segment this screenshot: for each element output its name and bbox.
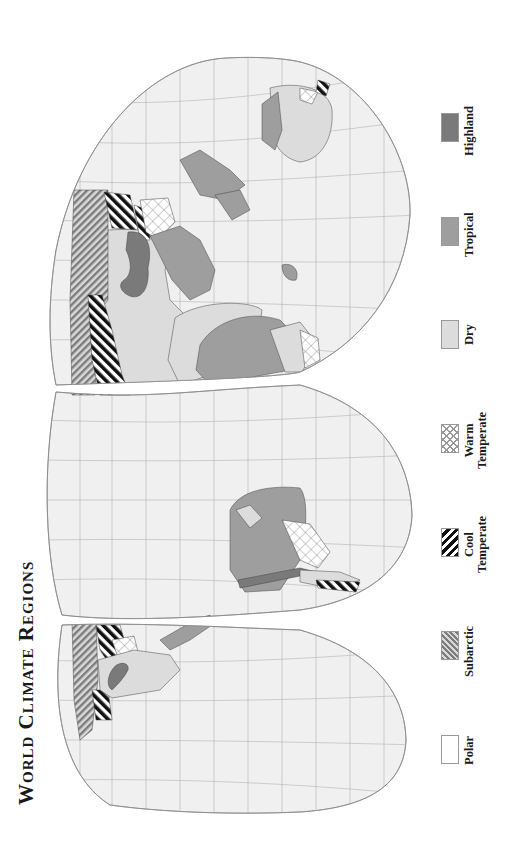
legend-label-tropical: Tropical: [463, 212, 476, 257]
legend-label-warm-temperate: Warm Temperate: [463, 412, 489, 469]
legend-label-highland: Highland: [463, 106, 476, 156]
legend-label-dry: Dry: [463, 324, 476, 345]
legend-label-cool-temperate: Cool Temperate: [463, 516, 489, 573]
legend-label-line-2: Temperate: [476, 516, 489, 573]
legend-label-polar: Polar: [463, 736, 476, 765]
legend-label-subarctic: Subarctic: [463, 626, 476, 677]
tropical-swatch: [441, 217, 459, 246]
cool-temperate-swatch: [441, 528, 459, 557]
legend-label-line-2: Temperate: [476, 412, 489, 469]
polar-swatch: [441, 735, 459, 764]
warm-temperate-swatch: [441, 424, 459, 453]
highland-swatch: [441, 113, 459, 142]
subarctic-swatch: [441, 631, 459, 660]
map-title: World Climate Regions: [14, 561, 38, 805]
dry-swatch: [441, 320, 459, 349]
